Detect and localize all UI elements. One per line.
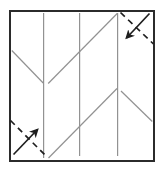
paper-square-border: [10, 11, 154, 161]
diagram-canvas: [0, 0, 163, 171]
origami-step-diagram: [0, 0, 163, 171]
